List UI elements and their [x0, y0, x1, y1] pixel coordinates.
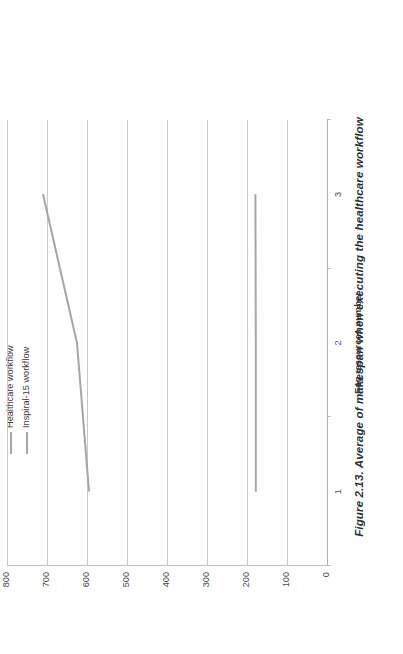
- value-axis-tick-label: 0: [322, 572, 331, 608]
- category-axis-tick-mark: [327, 416, 331, 417]
- rotated-figure-container: Healthcare workflow Inspiral-15 workflow…: [0, 0, 403, 654]
- plot-area: [7, 120, 327, 566]
- series-line-healthcare-workflow: [43, 194, 89, 491]
- value-axis-tick-label: 300: [202, 572, 211, 608]
- category-axis-tick-label: 1: [333, 472, 343, 512]
- figure-caption: Figure 2.13. Average of makespan when ex…: [352, 0, 365, 654]
- category-axis-tick-mark: [327, 268, 331, 269]
- value-axis-tick-label: 200: [242, 572, 251, 608]
- value-axis-tick-label: 400: [162, 572, 171, 608]
- category-axis-tick-mark: [327, 119, 331, 120]
- value-axis-tick-label: 100: [282, 572, 291, 608]
- value-axis-tick-label: 700: [42, 572, 51, 608]
- series-group: [7, 120, 327, 566]
- value-axis-tick-label: 800: [2, 572, 11, 608]
- value-axis-tick-label: 600: [82, 572, 91, 608]
- gridline: [327, 120, 328, 566]
- category-axis-tick-label: 2: [333, 323, 343, 363]
- category-axis-tick-label: 3: [333, 174, 343, 214]
- category-axis-tick-mark: [327, 565, 331, 566]
- value-axis-tick-label: 500: [122, 572, 131, 608]
